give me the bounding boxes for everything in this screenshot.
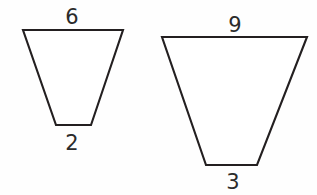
geometry-figure: 6 2 9 3 [0,0,317,195]
large-trapezoid-top-length-label: 9 [228,13,241,37]
small-trapezoid-bottom-length-label: 2 [65,131,78,155]
figure-canvas: 6 2 9 3 [0,0,317,195]
large-trapezoid-bottom-length-label: 3 [226,170,239,194]
small-trapezoid-outline [23,30,123,125]
small-trapezoid-top-length-label: 6 [65,5,78,29]
large-trapezoid-outline [162,37,307,165]
